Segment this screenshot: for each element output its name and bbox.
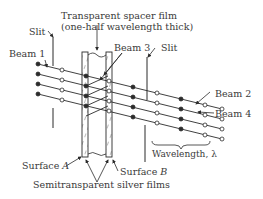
wavelength-label: Wavelength, λ	[152, 150, 217, 159]
wavelength-brace	[152, 141, 210, 149]
beam-3-label: Beam 3	[114, 43, 150, 53]
silver-films-label: Semitransparent silver films	[33, 180, 170, 190]
beam-2-label: Beam 2	[215, 89, 251, 99]
spacer-film-label-line2: (one-half wavelength thick)	[61, 22, 193, 32]
beam-1-label: Beam 1	[9, 49, 45, 59]
spacer-film-bottom	[88, 153, 106, 156]
silver-film-surface-b	[106, 52, 112, 157]
slit-label-right: Slit	[161, 43, 177, 53]
slit-label-left: Slit	[29, 27, 45, 37]
spacer-film-label-line1: Transparent spacer film	[61, 11, 177, 21]
surface-a-label: Surface A	[22, 161, 69, 171]
right-slit	[145, 57, 147, 162]
beams	[38, 64, 222, 139]
surface-b-label: Surface B	[120, 167, 167, 177]
spacer-film-top	[88, 53, 106, 57]
beam-4-label: Beam 4	[215, 109, 251, 119]
wave-nodes	[36, 62, 224, 141]
